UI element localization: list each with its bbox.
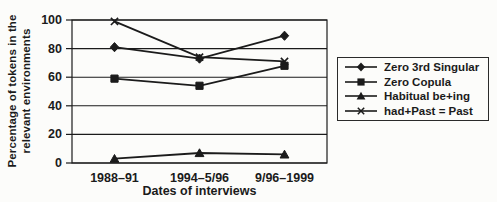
x-tick-label: 1994–5/96 xyxy=(170,171,229,185)
y-tick-label: 40 xyxy=(48,99,62,113)
legend-entry-had-past: had+Past = Past xyxy=(344,104,484,119)
x-axis-title: Dates of interviews xyxy=(72,184,327,198)
legend-entry-habitual-being: Habitual be+ing xyxy=(344,89,484,104)
legend-square-glyph xyxy=(357,78,364,85)
chart-figure: Percentage of tokens in the relevant env… xyxy=(0,0,497,202)
legend-box: Zero 3rd Singular Zero Copula Habitual b… xyxy=(337,57,489,121)
y-tick-label: 20 xyxy=(48,127,62,141)
plot-area: 0204060801001988–911994–5/969/96–1999 xyxy=(0,0,340,195)
legend-square-marker-icon xyxy=(344,76,378,88)
legend-diamond-marker-icon xyxy=(344,61,378,73)
y-tick-label: 0 xyxy=(55,156,62,170)
legend-label: Habitual be+ing xyxy=(384,90,470,102)
legend-triangle-marker-icon xyxy=(344,90,378,102)
legend-label: Zero Copula xyxy=(384,76,451,88)
legend-x-marker-icon xyxy=(344,105,378,117)
data-point-diamond-icon xyxy=(280,31,288,40)
legend-entry-zero-3rd-singular: Zero 3rd Singular xyxy=(344,60,484,75)
y-tick-label: 60 xyxy=(48,70,62,84)
data-point-square-icon xyxy=(196,82,203,89)
y-tick-label: 100 xyxy=(41,13,62,27)
legend-entry-zero-copula: Zero Copula xyxy=(344,75,484,90)
data-point-diamond-icon xyxy=(110,43,118,52)
legend-label: had+Past = Past xyxy=(384,105,473,117)
legend-diamond-glyph xyxy=(357,63,365,72)
y-tick-label: 80 xyxy=(48,42,62,56)
plot-frame xyxy=(72,20,327,163)
data-point-square-icon xyxy=(111,75,118,82)
x-tick-label: 1988–91 xyxy=(90,171,139,185)
legend-label: Zero 3rd Singular xyxy=(384,61,479,73)
x-tick-label: 9/96–1999 xyxy=(255,171,314,185)
